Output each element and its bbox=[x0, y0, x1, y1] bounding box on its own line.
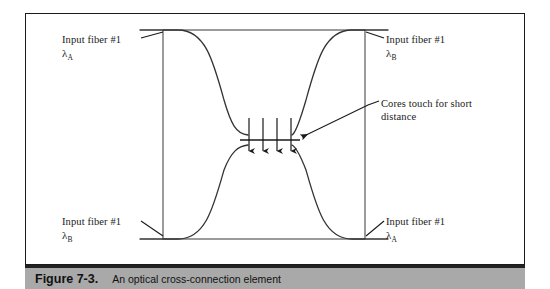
label-input-fiber-bottom-right: Input fiber #1 λA bbox=[386, 216, 445, 246]
label-input-fiber-top-right: Input fiber #1 λB bbox=[386, 34, 445, 64]
label-bottom-right-text: Input fiber #1 bbox=[386, 216, 445, 227]
label-bottom-left-text: Input fiber #1 bbox=[62, 216, 121, 227]
annotation-cores-touch-line1: Cores touch for short bbox=[381, 98, 472, 109]
figure-caption-number: Figure 7-3. bbox=[35, 272, 98, 286]
label-input-fiber-bottom-left: Input fiber #1 λB bbox=[62, 216, 121, 246]
figure-container: Input fiber #1 λA Input fiber #1 λB Inpu… bbox=[0, 0, 550, 289]
label-top-right-text: Input fiber #1 bbox=[386, 34, 445, 45]
label-input-fiber-top-left: Input fiber #1 λA bbox=[62, 34, 121, 64]
figure-caption-bar: Figure 7-3. An optical cross-connection … bbox=[25, 265, 525, 289]
label-top-left-text: Input fiber #1 bbox=[62, 34, 121, 45]
annotation-cores-touch-line2: distance bbox=[381, 111, 472, 124]
figure-caption-text: An optical cross-connection element bbox=[112, 273, 281, 285]
label-bottom-right-wavelength: λA bbox=[386, 229, 445, 247]
label-top-right-wavelength: λB bbox=[386, 47, 445, 65]
label-top-left-wavelength: λA bbox=[62, 47, 121, 65]
annotation-cores-touch: Cores touch for short distance bbox=[381, 98, 472, 123]
label-bottom-left-wavelength: λB bbox=[62, 229, 121, 247]
